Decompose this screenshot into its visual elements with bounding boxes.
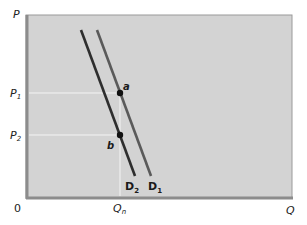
qn-label: Qn	[113, 202, 126, 216]
point-b-marker	[117, 132, 123, 138]
p1-label: P1	[10, 87, 21, 101]
point-b-label: b	[107, 140, 114, 151]
origin-label: 0	[14, 202, 21, 215]
x-axis-label: Q	[286, 204, 295, 217]
demand-shift-diagram: a b D2 D1 P Q 0 P1 P2 Qn	[0, 0, 307, 225]
point-a-label: a	[123, 81, 130, 92]
diagram-canvas: a b D2 D1 P Q 0 P1 P2 Qn	[0, 0, 307, 225]
plot-area	[26, 15, 292, 198]
y-axis-label: P	[13, 8, 20, 21]
p2-label: P2	[10, 129, 22, 143]
